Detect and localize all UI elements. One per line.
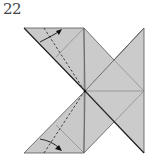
origami-diagram	[0, 0, 153, 168]
lower-left-flap	[24, 91, 85, 153]
center-point	[84, 90, 86, 92]
